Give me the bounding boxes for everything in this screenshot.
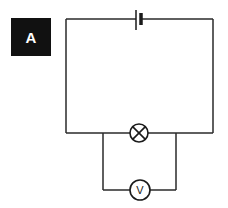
cell-icon [136,10,141,30]
voltmeter-label: V [136,184,144,196]
voltmeter-icon: V [130,180,150,200]
lamp-icon [130,124,148,142]
circuit-diagram: V [0,0,228,208]
main-loop-wires [66,19,213,133]
